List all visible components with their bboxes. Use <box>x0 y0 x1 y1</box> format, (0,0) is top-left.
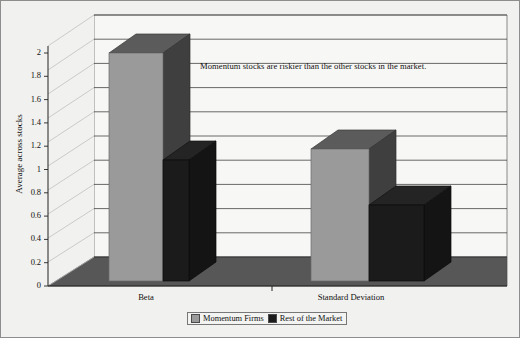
legend-label-rest-of-the-market: Rest of the Market <box>280 314 343 323</box>
y-tick-0-6: 0.6 <box>13 210 41 220</box>
left-wall <box>48 15 94 286</box>
y-tick-1: 1 <box>19 164 41 174</box>
bar-sd-rest <box>369 186 451 281</box>
y-tick-0-2: 0.2 <box>13 257 41 267</box>
y-tick-0: 0 <box>19 280 41 290</box>
chart-annotation: Momentum stocks are riskier than the oth… <box>200 61 426 71</box>
y-tick-0-4: 0.4 <box>13 233 41 243</box>
y-tick-0-8: 0.8 <box>13 187 41 197</box>
x-category-beta: Beta <box>111 292 181 302</box>
chart-canvas <box>1 1 520 338</box>
legend-item-rest-of-the-market: Rest of the Market <box>268 314 343 323</box>
y-tick-2: 2 <box>19 47 41 57</box>
y-tick-1-8: 1.8 <box>13 70 41 80</box>
y-tick-1-4: 1.4 <box>13 117 41 127</box>
bar-chart: Average across stocks 0 0.2 0.4 0.6 0.8 … <box>1 1 519 337</box>
y-tick-1-2: 1.2 <box>13 140 41 150</box>
x-category-standard-deviation: Standard Deviation <box>296 292 406 302</box>
chart-legend: Momentum Firms Rest of the Market <box>187 312 347 325</box>
legend-label-momentum-firms: Momentum Firms <box>203 314 264 323</box>
legend-item-momentum-firms: Momentum Firms <box>191 314 264 323</box>
bar-beta-rest <box>163 141 216 281</box>
y-tick-1-6: 1.6 <box>13 94 41 104</box>
chart-page: Average across stocks 0 0.2 0.4 0.6 0.8 … <box>0 0 520 338</box>
legend-swatch-rest-of-the-market <box>268 314 277 323</box>
y-axis-ticks <box>44 53 48 286</box>
legend-swatch-momentum-firms <box>191 314 200 323</box>
